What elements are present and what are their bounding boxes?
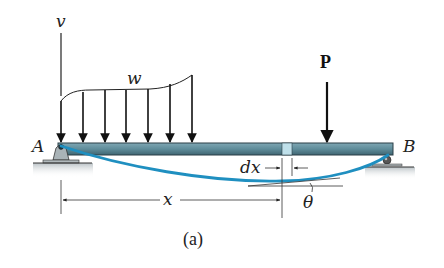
differential-element [282,143,292,155]
distributed-load: w [61,68,192,142]
beam-deflection-diagram: v w P A [0,0,444,268]
ground-shadow-b [365,167,415,179]
support-a-label: A [30,136,44,156]
point-load-label: P [320,52,331,72]
v-axis: v [56,11,66,96]
dx-label: dx [240,157,261,177]
point-load: P [320,52,331,142]
dx-dimension: dx [240,157,308,177]
figure-caption: (a) [183,229,203,250]
beam [58,143,393,155]
v-axis-label: v [56,11,66,31]
ground-shadow-a [33,163,93,177]
x-label: x [163,189,173,209]
support-b-label: B [402,136,416,156]
distributed-load-label: w [127,68,142,88]
slope-indicator: θ [248,178,343,212]
x-dimension: x [63,189,280,209]
theta-label: θ [303,192,313,212]
